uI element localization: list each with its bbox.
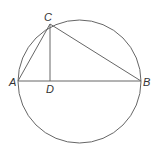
segment-cb (50, 24, 141, 81)
label-c: C (44, 11, 52, 23)
label-a: A (8, 76, 16, 88)
segment-ac (18, 24, 50, 81)
geometry-diagram: A B C D (0, 0, 155, 153)
label-d: D (46, 83, 54, 95)
label-b: B (143, 76, 150, 88)
